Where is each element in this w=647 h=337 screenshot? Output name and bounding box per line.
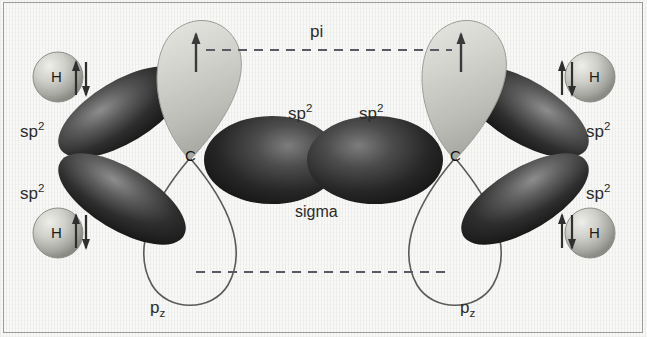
sp2-label-center-left: sp2 bbox=[288, 102, 312, 124]
sp2-base: sp bbox=[20, 122, 38, 141]
pz-label-right: pz bbox=[460, 298, 475, 319]
orbital-diagram-artwork bbox=[0, 0, 647, 337]
pz-subscript: z bbox=[159, 307, 165, 319]
sp2-lobe-right-sigma bbox=[307, 116, 443, 204]
sp2-base: sp bbox=[359, 104, 377, 123]
sp2-base: sp bbox=[586, 122, 604, 141]
sp2-exponent: 2 bbox=[38, 182, 44, 194]
pi-bond-label: pi bbox=[310, 22, 323, 42]
sigma-bond-label: sigma bbox=[295, 203, 338, 221]
sp2-label-right-lower: sp2 bbox=[586, 182, 610, 204]
sp2-exponent: 2 bbox=[38, 120, 44, 132]
sp2-label-left-lower: sp2 bbox=[20, 182, 44, 204]
figure-canvas: C C H H H H pi sigma sp2 sp2 sp2 sp2 sp2… bbox=[0, 0, 647, 337]
sp2-base: sp bbox=[288, 104, 306, 123]
sp2-base: sp bbox=[20, 184, 38, 203]
sp2-exponent: 2 bbox=[604, 120, 610, 132]
sp2-exponent: 2 bbox=[377, 102, 383, 114]
sp2-exponent: 2 bbox=[604, 182, 610, 194]
sp2-label-left-upper: sp2 bbox=[20, 120, 44, 142]
sp2-label-center-right: sp2 bbox=[359, 102, 383, 124]
pz-subscript: z bbox=[469, 307, 475, 319]
sp2-exponent: 2 bbox=[306, 102, 312, 114]
sp2-base: sp bbox=[586, 184, 604, 203]
sp2-label-right-upper: sp2 bbox=[586, 120, 610, 142]
pz-label-left: pz bbox=[150, 298, 165, 319]
